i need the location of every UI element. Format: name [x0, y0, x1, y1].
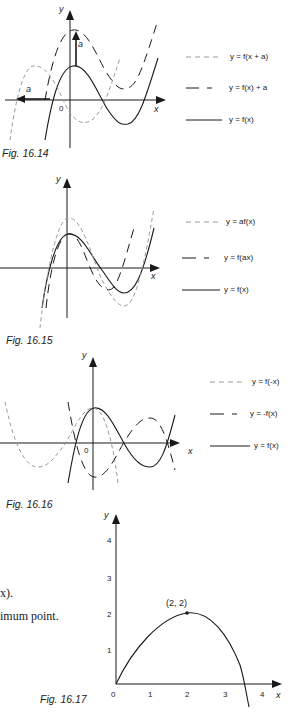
body-text-line: imum point. [0, 609, 59, 624]
x-tick-label: 1 [148, 690, 152, 699]
curve-f-x-plus-a-vertical [45, 20, 158, 100]
x-axis-label: x [188, 446, 193, 456]
x-axis-arrow-icon [156, 96, 166, 104]
legend-label: y = f(x) [254, 441, 279, 450]
x-axis-arrow-icon [272, 680, 282, 688]
figure-16-14: y x 0 a a y = f(x + a) y = f(x) + a y = … [0, 0, 299, 165]
arrow-left-icon [16, 95, 25, 103]
figure-16-15: y x y = af(x) y = f(ax) y = f(x) Fig. 16… [0, 170, 299, 350]
legend-label: y = f(ax) [224, 253, 253, 262]
y-axis-arrow-icon [112, 514, 120, 524]
curve-parabola [116, 613, 249, 707]
figure-caption: Fig. 16.14 [2, 147, 49, 159]
x-tick-label: 3 [223, 690, 227, 699]
legend-label: y = f(x + a) [230, 52, 268, 61]
legend-label: y = af(x) [226, 217, 255, 226]
origin-label: 0 [59, 104, 63, 113]
graph-16-15 [0, 170, 299, 350]
figure-caption: Fig. 16.17 [40, 693, 87, 705]
y-axis-label: y [59, 4, 64, 14]
x-tick-label: 4 [260, 690, 264, 699]
y-tick-label: 1 [107, 646, 111, 655]
legend-label: y = f(x) [224, 285, 249, 294]
y-tick-label: 3 [107, 574, 111, 583]
y-axis-arrow-icon [66, 10, 74, 20]
origin-label: 0 [84, 446, 88, 455]
y-axis-label: y [104, 510, 109, 520]
x-tick-label: 0 [111, 690, 115, 699]
y-tick-label: 4 [107, 536, 111, 545]
legend-label: y = -f(x) [250, 409, 277, 418]
y-axis-label: y [82, 350, 87, 360]
x-axis-label: x [276, 690, 281, 700]
graph-16-16 [0, 340, 299, 515]
x-tick-label: 2 [185, 690, 189, 699]
y-axis-arrow-icon [63, 178, 71, 188]
y-axis-label: y [56, 174, 61, 184]
graph-16-17 [0, 500, 299, 712]
maximum-point-label: (2, 2) [166, 598, 187, 608]
x-axis-label: x [154, 104, 159, 114]
y-tick-label: 2 [107, 610, 111, 619]
x-axis-label: x [151, 271, 156, 281]
body-text-line: x). [0, 586, 13, 601]
maximum-point-marker [185, 611, 189, 615]
legend-label: y = f(x) + a [229, 83, 267, 92]
figure-16-16: y x 0 y = f(-x) y = -f(x) y = f(x) Fig. … [0, 340, 299, 515]
x-axis-arrow-icon [170, 439, 180, 447]
y-axis-arrow-icon [89, 357, 97, 367]
figure-16-17: y x 0 1 2 3 4 1 2 3 4 (2, 2) Fig. 16.17 [0, 500, 299, 712]
shift-up-label: a [78, 39, 83, 49]
shift-left-label: a [26, 84, 31, 94]
legend-label: y = f(-x) [252, 377, 279, 386]
legend-label: y = f(x) [229, 115, 254, 124]
